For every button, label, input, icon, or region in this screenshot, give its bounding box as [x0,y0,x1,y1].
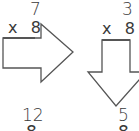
right-arrow-icon [3,24,73,82]
problem-2-cutoff-text: 8 [118,124,129,131]
down-arrow-icon [88,40,139,106]
problem-1-cutoff-text: 8 [26,124,37,131]
